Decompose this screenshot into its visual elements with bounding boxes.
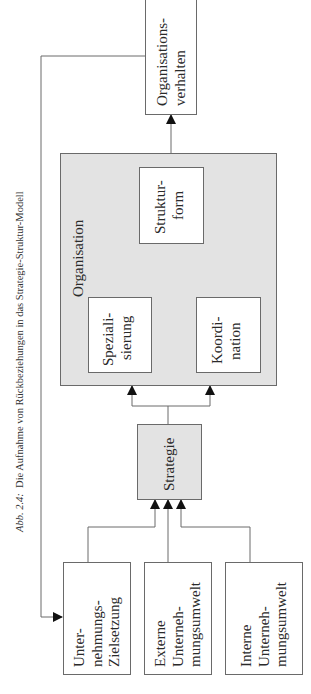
node-label-line: Zielsetzung (106, 597, 124, 667)
figure-caption-text: Die Aufnahme von Rückbeziehungen in das … (14, 191, 25, 488)
organisation-label: Organisation (70, 220, 88, 297)
node-label-line: nation (227, 317, 245, 365)
figure-number: Abb. 2.4: (14, 493, 25, 532)
node-label-line: Unter- (71, 597, 89, 667)
node-label-line: Externe (152, 582, 170, 667)
node-label-line: Organisations- (154, 18, 172, 106)
node-strategie: Strategie (137, 424, 202, 500)
figure-caption: Abb. 2.4: Die Aufnahme von Rückbeziehung… (14, 191, 25, 532)
node-label-line: sierung (118, 313, 136, 366)
node-label-line: Unterneh- (170, 582, 188, 667)
node-label-line: Struktur- (152, 180, 170, 234)
node-label-line: Speziali- (100, 313, 118, 366)
node-externe-umwelt: Externe Unterneh- mungsumwelt (144, 562, 212, 675)
node-label-line: verhalten (172, 18, 190, 106)
node-label-line: form (170, 180, 188, 234)
node-label-line: Interne (238, 582, 256, 667)
zielsetzung-to-strategie-arrow (88, 500, 155, 562)
node-interne-umwelt: Interne Unterneh- mungsumwelt (225, 562, 303, 675)
node-spezialisierung: Speziali- sierung (88, 297, 152, 373)
node-strukturform: Struktur- form (139, 167, 204, 244)
node-label-line: nehmungs- (89, 597, 107, 667)
node-zielsetzung: Unter- nehmungs- Zielsetzung (63, 562, 131, 675)
strategie-label: Strategie (161, 438, 179, 491)
node-label-line: Koordi- (209, 317, 227, 365)
node-label-line: mungsumwelt (187, 582, 205, 667)
node-label-line: Unterneh- (256, 582, 274, 667)
node-organisationsverhalten: Organisations- verhalten (145, 0, 197, 115)
node-label-line: mungsumwelt (273, 582, 291, 667)
interne-to-strategie-arrow (181, 500, 250, 562)
node-koordination: Koordi- nation (196, 297, 261, 373)
